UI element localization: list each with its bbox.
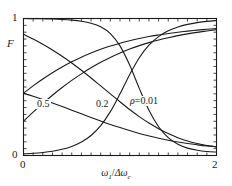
figure-container: 1 0 0 2 F ω1/Δωc 0.5 0.2 ρ=0.01 [0, 0, 232, 186]
y-axis-tick-label-max: 1 [12, 12, 18, 23]
x-axis-label: ω1/Δωc [0, 168, 232, 181]
curve-label-rho-0-01: ρ=0.01 [129, 96, 159, 106]
y-axis-tick-label-min: 0 [12, 149, 18, 160]
x-axis-label-delta-omega-subscript: c [128, 173, 131, 181]
rho-value: =0.01 [135, 95, 158, 106]
x-axis-label-delta-omega: Δω [115, 167, 128, 178]
curve-label-rho-0-2: 0.2 [95, 99, 110, 109]
chart-canvas [0, 0, 232, 186]
y-axis-label: F [7, 38, 14, 49]
curve-label-rho-0-5: 0.5 [36, 99, 51, 109]
plot-frame [24, 19, 217, 156]
